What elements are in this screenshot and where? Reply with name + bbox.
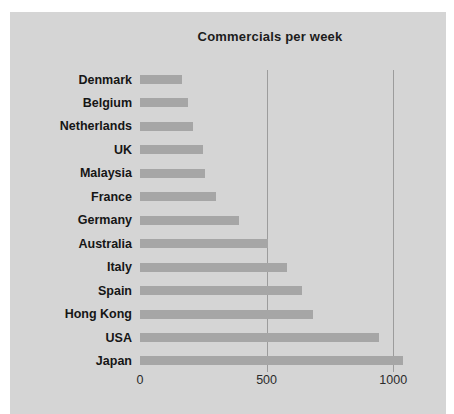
bar-row: Netherlands: [10, 115, 446, 138]
chart-panel: Commercials per week DenmarkBelgiumNethe…: [10, 12, 446, 414]
x-tick-label: 1000: [363, 373, 423, 387]
category-label: Hong Kong: [10, 307, 132, 321]
figure-page: Commercials per week DenmarkBelgiumNethe…: [0, 0, 454, 414]
bar-row: Australia: [10, 232, 446, 255]
bar-row: Malaysia: [10, 162, 446, 185]
category-label: Denmark: [10, 73, 132, 87]
bar: [140, 192, 216, 201]
bar-row: Italy: [10, 255, 446, 278]
x-tick-label: 500: [237, 373, 297, 387]
bar: [140, 286, 302, 295]
category-label: Australia: [10, 237, 132, 251]
bar: [140, 145, 203, 154]
category-label: Spain: [10, 284, 132, 298]
bar-row: France: [10, 185, 446, 208]
bar-row: Hong Kong: [10, 302, 446, 325]
category-label: USA: [10, 331, 132, 345]
bar-rows: DenmarkBelgiumNetherlandsUKMalaysiaFranc…: [10, 68, 446, 373]
bar: [140, 333, 379, 342]
category-label: Belgium: [10, 96, 132, 110]
bar: [140, 356, 403, 365]
category-label: Malaysia: [10, 166, 132, 180]
bar: [140, 75, 182, 84]
bar-row: UK: [10, 138, 446, 161]
bar: [140, 122, 193, 131]
bar-row: USA: [10, 326, 446, 349]
category-label: UK: [10, 143, 132, 157]
category-label: Germany: [10, 213, 132, 227]
bar-row: Spain: [10, 279, 446, 302]
category-label: Japan: [10, 354, 132, 368]
category-label: France: [10, 190, 132, 204]
category-label: Italy: [10, 260, 132, 274]
bar-row: Belgium: [10, 91, 446, 114]
bar: [140, 169, 205, 178]
bar: [140, 98, 188, 107]
bar: [140, 239, 268, 248]
bar-row: Germany: [10, 209, 446, 232]
bar-row: Japan: [10, 349, 446, 372]
bar: [140, 310, 313, 319]
bar: [140, 216, 239, 225]
chart-title: Commercials per week: [140, 29, 400, 44]
bar-row: Denmark: [10, 68, 446, 91]
bar: [140, 263, 287, 272]
category-label: Netherlands: [10, 119, 132, 133]
x-tick-label: 0: [110, 373, 170, 387]
